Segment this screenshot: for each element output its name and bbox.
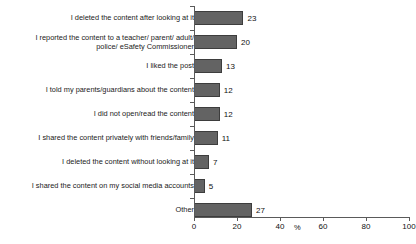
category-label: I deleted the content after looking at i…	[4, 6, 194, 30]
bar-value-label: 23	[247, 14, 256, 23]
category-label: I shared the content on my social media …	[4, 174, 194, 198]
bar-group: 12	[194, 83, 233, 97]
category-label: Other	[4, 198, 194, 222]
x-axis-tick-label: 20	[233, 222, 242, 231]
x-axis-tick-label: 40	[276, 222, 285, 231]
bar-chart: I deleted the content after looking at i…	[0, 0, 416, 244]
bar-group: 13	[194, 59, 235, 73]
bar-value-label: 12	[224, 110, 233, 119]
bar-group: 7	[194, 155, 218, 169]
bar-group: 11	[194, 131, 230, 145]
x-axis-tick-label: 100	[402, 222, 415, 231]
bar-value-label: 20	[241, 38, 250, 47]
bar[interactable]	[194, 59, 222, 73]
bar[interactable]	[194, 155, 209, 169]
chart-row: I shared the content on my social media …	[0, 174, 416, 198]
chart-row: I did not open/read the content 12	[0, 102, 416, 126]
category-label: I told my parents/guardians about the co…	[4, 78, 194, 102]
bar[interactable]	[194, 11, 243, 25]
category-label: I deleted the content without looking at…	[4, 150, 194, 174]
bar-rows: I deleted the content after looking at i…	[0, 6, 416, 222]
bar[interactable]	[194, 203, 252, 217]
bar-group: 20	[194, 35, 250, 49]
chart-row: Other 27	[0, 198, 416, 222]
x-axis-tick	[194, 217, 195, 221]
x-axis-tick	[409, 217, 410, 221]
y-axis-tick	[190, 198, 194, 199]
category-label: I liked the post	[4, 54, 194, 78]
chart-row: I liked the post 13	[0, 54, 416, 78]
bar[interactable]	[194, 131, 218, 145]
chart-row: I told my parents/guardians about the co…	[0, 78, 416, 102]
bar-value-label: 12	[224, 86, 233, 95]
x-axis-tick-label: 60	[319, 222, 328, 231]
y-axis-tick	[190, 174, 194, 175]
chart-row: I deleted the content after looking at i…	[0, 6, 416, 30]
category-label: I did not open/read the content	[4, 102, 194, 126]
y-axis-tick	[190, 102, 194, 103]
y-axis-tick	[190, 30, 194, 31]
x-axis-tick-label: 0	[192, 222, 196, 231]
y-axis-tick	[190, 150, 194, 151]
bar-group: 5	[194, 179, 213, 193]
bar-value-label: 5	[209, 182, 213, 191]
bar-group: 27	[194, 203, 265, 217]
bar[interactable]	[194, 107, 220, 121]
bar[interactable]	[194, 83, 220, 97]
y-axis-tick	[190, 126, 194, 127]
y-axis-tick	[190, 78, 194, 79]
bar-group: 12	[194, 107, 233, 121]
y-axis-tick	[190, 54, 194, 55]
x-axis-tick	[280, 217, 281, 221]
chart-row: I reported the content to a teacher/ par…	[0, 30, 416, 54]
bar-value-label: 13	[226, 62, 235, 71]
x-axis-tick-label: 80	[362, 222, 371, 231]
x-axis-title: %	[294, 223, 301, 232]
x-axis-tick	[237, 217, 238, 221]
category-label: I shared the content privately with frie…	[4, 126, 194, 150]
y-axis-line	[194, 6, 195, 217]
bar[interactable]	[194, 35, 237, 49]
bar[interactable]	[194, 179, 205, 193]
chart-row: I shared the content privately with frie…	[0, 126, 416, 150]
y-axis-tick	[190, 6, 194, 7]
bar-value-label: 11	[222, 134, 230, 143]
plot-area: I deleted the content after looking at i…	[0, 0, 416, 244]
x-axis-tick	[323, 217, 324, 221]
category-label: I reported the content to a teacher/ par…	[4, 30, 194, 54]
bar-value-label: 7	[213, 158, 217, 167]
chart-row: I deleted the content without looking at…	[0, 150, 416, 174]
x-axis-line	[194, 217, 409, 218]
bar-value-label: 27	[256, 206, 265, 215]
x-axis-tick	[366, 217, 367, 221]
bar-group: 23	[194, 11, 256, 25]
